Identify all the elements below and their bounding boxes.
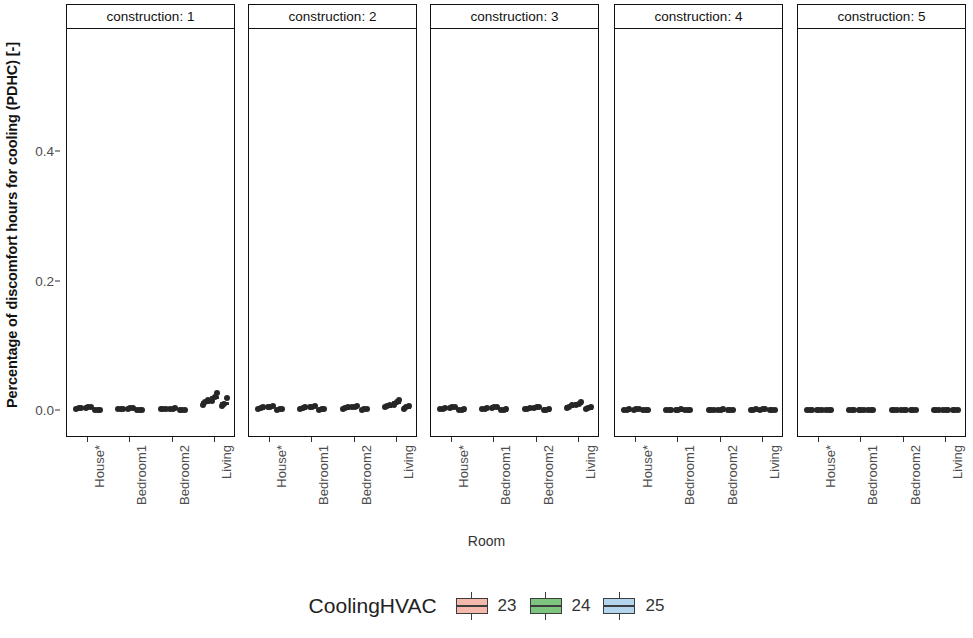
data-point [772, 407, 778, 413]
legend-key-boxplot-icon [529, 592, 563, 620]
data-point [730, 407, 736, 413]
data-point [396, 397, 402, 403]
legend-items: 232425 [455, 592, 665, 620]
facet-panel: construction: 1House*Bedroom1Bedroom2Liv… [66, 4, 235, 443]
data-point [588, 404, 594, 410]
data-point [828, 407, 834, 413]
facet-strip-label: construction: 2 [248, 4, 417, 29]
x-tick-label: House* [456, 445, 471, 488]
legend-item[interactable]: 23 [455, 592, 517, 620]
x-tick-mark [311, 437, 312, 442]
facet-strip-label: construction: 4 [614, 4, 783, 29]
y-axis-ticks: 0.00.20.4 [24, 0, 60, 460]
data-point [461, 406, 467, 412]
x-tick-label: Bedroom1 [134, 445, 149, 505]
x-tick-mark [269, 437, 270, 442]
data-point [870, 407, 876, 413]
x-tick-mark [396, 437, 397, 442]
y-tick-mark [55, 151, 60, 152]
x-tick-mark [578, 437, 579, 442]
data-point [503, 406, 509, 412]
legend-key-boxplot-icon [455, 592, 489, 620]
x-tick-label: Bedroom1 [682, 445, 697, 505]
panel-plot-area [430, 29, 599, 437]
x-tick-mark [451, 437, 452, 442]
x-tick-label: Bedroom1 [865, 445, 880, 505]
facet-panel: construction: 3House*Bedroom1Bedroom2Liv… [430, 4, 599, 443]
x-tick-label: Living [950, 445, 965, 479]
chart-figure: Percentage of discomfort hours for cooli… [0, 0, 973, 638]
x-axis-ticks: House*Bedroom1Bedroom2Living [248, 437, 417, 443]
x-tick-label: Living [219, 445, 234, 479]
x-tick-label: House* [274, 445, 289, 488]
y-tick-mark [55, 410, 60, 411]
legend-label: 24 [572, 596, 591, 616]
data-point [364, 406, 370, 412]
x-tick-label: Bedroom2 [177, 445, 192, 505]
x-tick-label: House* [640, 445, 655, 488]
x-tick-mark [860, 437, 861, 442]
x-tick-mark [720, 437, 721, 442]
x-axis-ticks: House*Bedroom1Bedroom2Living [614, 437, 783, 443]
x-tick-mark [903, 437, 904, 442]
data-point [687, 407, 693, 413]
data-point [913, 407, 919, 413]
data-point [221, 401, 227, 407]
x-tick-mark [818, 437, 819, 442]
x-tick-label: Bedroom2 [359, 445, 374, 505]
legend-key-boxplot-icon [602, 592, 636, 620]
x-tick-label: Bedroom1 [498, 445, 513, 505]
x-axis-ticks: House*Bedroom1Bedroom2Living [797, 437, 966, 443]
x-tick-label: Bedroom1 [316, 445, 331, 505]
facet-strip-label: construction: 5 [797, 4, 966, 29]
panel-plot-area [66, 29, 235, 437]
panel-plot-area [614, 29, 783, 437]
y-tick-label: 0.4 [35, 144, 54, 159]
data-point [224, 395, 230, 401]
facet-panel: construction: 5House*Bedroom1Bedroom2Liv… [797, 4, 966, 443]
data-point [321, 406, 327, 412]
x-tick-mark [354, 437, 355, 442]
data-point [139, 407, 145, 413]
facet-panel: construction: 2House*Bedroom1Bedroom2Liv… [248, 4, 417, 443]
facet-panel: construction: 4House*Bedroom1Bedroom2Liv… [614, 4, 783, 443]
legend-item[interactable]: 24 [529, 592, 591, 620]
data-point [578, 399, 584, 405]
data-point [97, 407, 103, 413]
panel-plot-area [248, 29, 417, 437]
x-tick-mark [536, 437, 537, 442]
x-tick-mark [172, 437, 173, 442]
x-tick-mark [762, 437, 763, 442]
legend-label: 23 [498, 596, 517, 616]
legend-title: CoolingHVAC [309, 594, 437, 618]
legend-item[interactable]: 25 [602, 592, 664, 620]
x-tick-mark [129, 437, 130, 442]
x-tick-label: Bedroom2 [541, 445, 556, 505]
x-axis-ticks: House*Bedroom1Bedroom2Living [430, 437, 599, 443]
y-tick-mark [55, 280, 60, 281]
x-tick-label: Living [401, 445, 416, 479]
x-tick-label: Living [583, 445, 598, 479]
legend-label: 25 [645, 596, 664, 616]
y-tick-label: 0.0 [35, 403, 54, 418]
facet-strip-label: construction: 3 [430, 4, 599, 29]
x-tick-mark [214, 437, 215, 442]
y-tick-label: 0.2 [35, 273, 54, 288]
x-axis-title: Room [0, 533, 973, 549]
x-tick-label: Living [767, 445, 782, 479]
x-tick-mark [945, 437, 946, 442]
data-point [279, 406, 285, 412]
x-tick-mark [677, 437, 678, 442]
y-axis-title-text: Percentage of discomfort hours for cooli… [4, 42, 20, 408]
panel-plot-area [797, 29, 966, 437]
facet-strip-label: construction: 1 [66, 4, 235, 29]
y-axis-title: Percentage of discomfort hours for cooli… [0, 0, 24, 450]
x-tick-label: House* [823, 445, 838, 488]
x-axis-ticks: House*Bedroom1Bedroom2Living [66, 437, 235, 443]
legend: CoolingHVAC 232425 [0, 592, 973, 620]
data-point [182, 407, 188, 413]
data-point [546, 406, 552, 412]
data-point [406, 403, 412, 409]
x-tick-label: House* [92, 445, 107, 488]
x-tick-label: Bedroom2 [908, 445, 923, 505]
